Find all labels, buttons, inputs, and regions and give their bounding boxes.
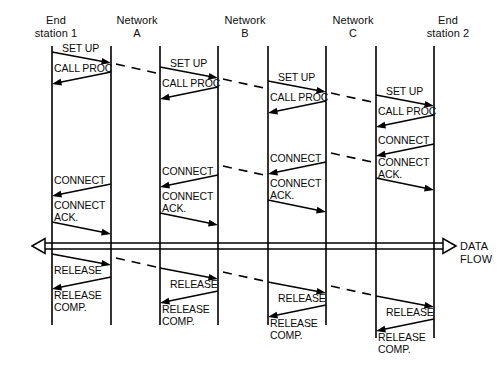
message-label-m02: CALL PROC	[54, 63, 112, 75]
message-m03-head	[52, 191, 62, 198]
message-label-m05: RELEASE	[54, 265, 102, 277]
message-m16-head	[316, 207, 326, 214]
message-m12-shaft	[167, 291, 218, 302]
message-m05-head	[101, 260, 111, 267]
lifelines-group	[52, 46, 434, 338]
message-m17-shaft	[268, 282, 319, 292]
inter-link-d02	[223, 79, 264, 88]
message-label-m16: CONNECT ACK.	[270, 178, 321, 201]
column-header-network-c: Network C	[318, 14, 388, 39]
message-label-m04: CONNECT ACK.	[54, 200, 105, 223]
message-label-m21: CONNECT	[378, 135, 429, 147]
inter-link-d08	[331, 286, 372, 295]
message-m16-shaft	[268, 200, 319, 211]
message-label-m14: CALL PROC	[270, 92, 328, 104]
message-m11-shaft	[160, 268, 211, 278]
message-label-m22: CONNECT ACK.	[378, 157, 429, 180]
message-m08-head	[160, 94, 170, 101]
message-m09-head	[160, 182, 170, 189]
message-label-m15: CONNECT	[270, 153, 321, 165]
column-header-end-station-1: End station 1	[21, 14, 91, 39]
message-label-m19: SET UP	[386, 86, 423, 98]
message-label-m09: CONNECT	[162, 166, 213, 178]
data-flow-label: DATA FLOW	[460, 240, 492, 266]
message-label-m24: RELEASE COMP.	[378, 332, 426, 355]
message-label-m23: RELEASE	[386, 307, 434, 319]
message-m04-head	[101, 229, 111, 236]
message-label-m18: RELEASE COMP.	[270, 318, 318, 341]
inter-link-d06	[116, 258, 156, 267]
message-m04-shaft	[52, 222, 104, 233]
data-flow-arrowhead-left	[32, 239, 45, 254]
inter-link-d03	[331, 93, 372, 102]
column-header-network-b: Network B	[210, 14, 280, 39]
data-flow-group	[32, 239, 456, 254]
message-m05-shaft	[52, 254, 104, 264]
message-label-m07: SET UP	[170, 58, 207, 70]
message-label-m03: CONNECT	[54, 175, 105, 187]
inter-link-d04	[223, 166, 264, 175]
message-label-m01: SET UP	[62, 43, 99, 55]
message-m18-shaft	[275, 305, 326, 316]
message-label-m17: RELEASE	[278, 293, 326, 305]
inter-link-d05	[331, 153, 372, 162]
message-m14-head	[268, 108, 278, 115]
diagram-canvas: End station 1Network ANetwork BNetwork C…	[0, 0, 504, 369]
message-m20-head	[376, 122, 386, 129]
column-header-network-a: Network A	[102, 14, 172, 39]
message-m02-head	[52, 79, 62, 86]
message-label-m12: RELEASE COMP.	[162, 304, 210, 327]
inter-link-d01	[116, 64, 156, 73]
data-flow-arrowhead-right	[443, 239, 456, 254]
message-label-m20: CALL PROC	[378, 106, 436, 118]
inter-network-links-group	[116, 64, 372, 295]
message-label-m13: SET UP	[278, 72, 315, 84]
message-m22-head	[424, 185, 434, 192]
message-m15-head	[268, 169, 278, 176]
message-label-m08: CALL PROC	[162, 78, 220, 90]
message-label-m10: CONNECT ACK.	[162, 191, 213, 214]
inter-link-d07	[223, 272, 264, 281]
message-m06-shaft	[59, 277, 111, 288]
message-label-m11: RELEASE	[170, 279, 218, 291]
message-m23-shaft	[376, 296, 427, 306]
message-m10-head	[208, 220, 218, 227]
message-m10-shaft	[160, 213, 211, 224]
message-label-m06: RELEASE COMP.	[54, 290, 102, 313]
message-m24-shaft	[383, 319, 434, 330]
column-header-end-station-2: End station 2	[412, 14, 484, 39]
